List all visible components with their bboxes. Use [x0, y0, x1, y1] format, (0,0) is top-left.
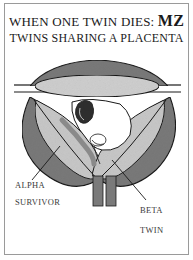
- label-survivor: SURVIVOR: [15, 197, 60, 207]
- twin-placenta-diagram: [0, 0, 193, 260]
- label-beta: BETA: [140, 205, 163, 215]
- label-twin: TWIN: [140, 225, 163, 235]
- label-alpha: ALPHA: [15, 180, 45, 190]
- placenta-icon: [30, 60, 168, 97]
- alpha-fetus-icon: [75, 100, 93, 123]
